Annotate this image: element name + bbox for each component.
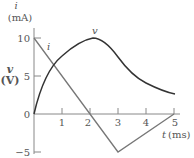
i-axis-unit: (mA) — [8, 12, 33, 23]
x-tick-label-5: 5 — [172, 117, 178, 128]
v-curve-label: v — [92, 25, 98, 36]
x-tick-label-3: 3 — [115, 117, 121, 128]
t-axis-var: t — [162, 129, 167, 140]
y-tick-label-10: 10 — [17, 33, 30, 44]
i-axis-var: i — [14, 0, 17, 11]
y-tick-label-5: 5 — [24, 71, 30, 82]
y-tick-label-neg5: −5 — [15, 147, 30, 158]
i-curve-label: i — [47, 41, 50, 52]
t-axis-unit: (ms) — [168, 129, 191, 140]
v-axis-unit: (V) — [1, 74, 20, 87]
chart: 10 5 0 −5 1 2 3 4 5 i (mA) v (V) t (ms) … — [0, 0, 194, 158]
x-tick-label-2: 2 — [85, 117, 91, 128]
x-tick-label-1: 1 — [59, 117, 65, 128]
x-tick-label-4: 4 — [143, 117, 149, 128]
i-series-line — [34, 38, 174, 152]
y-tick-label-0: 0 — [24, 109, 30, 120]
v-series-line — [34, 38, 175, 114]
